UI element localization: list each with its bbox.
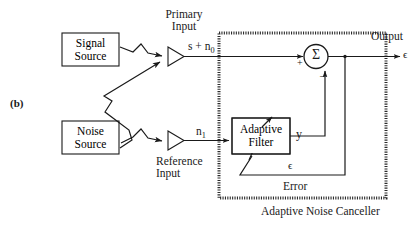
noise-source-line2: Source	[75, 138, 107, 151]
figure-caption: Adaptive Noise Canceller	[261, 205, 380, 217]
adaptive-filter-label: Adaptive Filter	[232, 118, 290, 154]
error-symbol-label: ϵ	[288, 160, 292, 172]
noise-to-reference-path	[121, 129, 162, 143]
primary-input-line2: Input	[152, 20, 216, 32]
reference-signal-label: n1	[196, 125, 206, 141]
primary-input-line1: Primary	[152, 8, 216, 20]
signal-source-line1: Signal	[76, 37, 105, 50]
error-feedback-stub	[240, 156, 252, 175]
adaptive-filter-line2: Filter	[249, 136, 274, 149]
error-text-label: Error	[283, 180, 307, 192]
summer-plus-sign: +	[297, 58, 303, 69]
summer-minus-sign: –	[320, 70, 326, 82]
primary-signal-subscript: 0	[210, 46, 214, 55]
reference-sensor-triangle	[168, 131, 184, 150]
noise-source-label: Noise Source	[62, 121, 119, 154]
primary-input-label: Primary Input	[152, 8, 216, 33]
filter-output-label: y	[296, 128, 302, 141]
signal-source-line2: Source	[75, 50, 107, 63]
signal-propagation-path	[120, 44, 162, 56]
reference-signal-subscript: 1	[202, 131, 206, 140]
adaptive-filter-line1: Adaptive	[240, 123, 282, 136]
reference-input-label: Reference Input	[156, 155, 203, 180]
signal-source-label: Signal Source	[62, 33, 119, 66]
primary-signal-label: s + n0	[188, 40, 215, 56]
output-symbol-label: ϵ	[403, 49, 407, 61]
primary-signal-base: s + n	[188, 40, 210, 52]
primary-sensor-triangle	[168, 47, 184, 66]
summation-symbol: Σ	[304, 47, 328, 62]
output-tap-junction	[343, 55, 346, 58]
noise-source-line1: Noise	[77, 125, 104, 138]
panel-label: (b)	[10, 98, 23, 110]
output-text-label: Output	[371, 30, 403, 42]
reference-input-line2: Input	[156, 167, 203, 179]
adaptive-noise-canceller-figure: (b) Signal Source Noise Source Adaptive …	[0, 0, 418, 229]
reference-input-line1: Reference	[156, 155, 203, 167]
error-feedback-line	[250, 57, 345, 176]
